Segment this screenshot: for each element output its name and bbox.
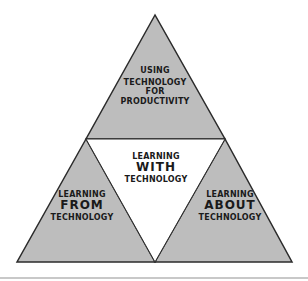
triangle-diagram bbox=[0, 0, 308, 281]
top-line-2: TECHNOLOGY bbox=[100, 78, 210, 87]
bottom-right-line-3: TECHNOLOGY bbox=[180, 213, 280, 222]
center-line-2: WITH bbox=[110, 161, 202, 175]
bottom-right-line-2: ABOUT bbox=[180, 199, 280, 213]
bottom-left-segment-label: LEARNING FROM TECHNOLOGY bbox=[36, 190, 128, 222]
top-line-3: FOR bbox=[100, 87, 210, 96]
center-line-3: TECHNOLOGY bbox=[110, 175, 202, 184]
top-line-4: PRODUCTIVITY bbox=[100, 97, 210, 106]
bottom-right-segment-label: LEARNING ABOUT TECHNOLOGY bbox=[180, 190, 280, 222]
top-segment-label: USING TECHNOLOGY FOR PRODUCTIVITY bbox=[100, 66, 210, 106]
diagram-canvas: USING TECHNOLOGY FOR PRODUCTIVITY LEARNI… bbox=[0, 0, 308, 281]
bottom-left-line-2: FROM bbox=[36, 199, 128, 213]
bottom-divider bbox=[0, 277, 308, 279]
bottom-left-line-3: TECHNOLOGY bbox=[36, 213, 128, 222]
center-segment-label: LEARNING WITH TECHNOLOGY bbox=[110, 152, 202, 184]
top-line-1: USING bbox=[100, 66, 210, 75]
